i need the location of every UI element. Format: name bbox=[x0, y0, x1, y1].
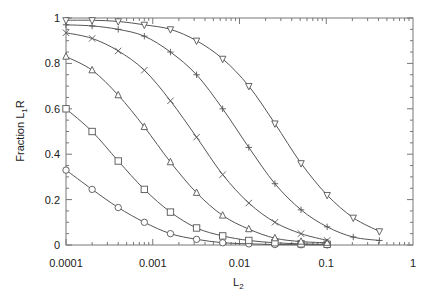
x-axis-title: L2 bbox=[233, 276, 244, 291]
x-tick-label: 0.0001 bbox=[49, 257, 83, 269]
x-axis-ticks: 0.00010.0010.010.11 bbox=[49, 18, 416, 269]
series-square bbox=[63, 106, 331, 248]
y-tick-label: 0.4 bbox=[45, 148, 60, 160]
y-tick-label: 0.2 bbox=[45, 194, 60, 206]
square-marker-icon bbox=[63, 106, 331, 248]
series-triangle-up bbox=[63, 53, 331, 246]
series-line bbox=[66, 20, 379, 231]
x-tick-label: 0.01 bbox=[229, 257, 250, 269]
x-tick-label: 0.001 bbox=[139, 257, 167, 269]
triangle-up-marker-icon bbox=[63, 53, 331, 246]
y-tick-label: 1 bbox=[54, 12, 60, 24]
y-tick-label: 0.8 bbox=[45, 57, 60, 69]
series-line bbox=[66, 57, 327, 243]
series-line bbox=[66, 109, 327, 245]
y-tick-label: 0 bbox=[54, 239, 60, 251]
series-plus bbox=[63, 22, 383, 244]
series-line bbox=[66, 170, 327, 245]
y-axis-ticks: 00.20.40.60.81 bbox=[45, 12, 413, 251]
x-marker-icon bbox=[63, 30, 331, 244]
x-tick-label: 0.1 bbox=[319, 257, 334, 269]
series-layer bbox=[63, 18, 383, 248]
plus-marker-icon bbox=[63, 22, 383, 244]
y-axis-title: Fraction L1R bbox=[14, 100, 29, 161]
x-tick-label: 1 bbox=[410, 257, 416, 269]
circle-marker-icon bbox=[63, 167, 331, 248]
chart-canvas: 0.00010.0010.010.11 00.20.40.60.81 L2 Fr… bbox=[0, 0, 430, 302]
series-circle bbox=[63, 167, 331, 248]
y-tick-label: 0.6 bbox=[45, 103, 60, 115]
series-cross bbox=[63, 30, 331, 244]
